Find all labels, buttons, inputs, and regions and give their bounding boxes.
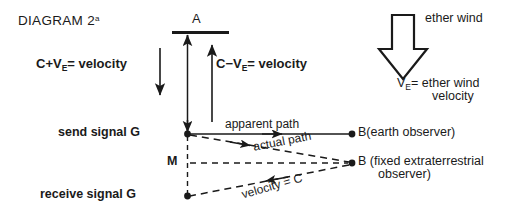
down-beam-prefix: C+V <box>36 56 62 71</box>
diagram-vector-layer <box>0 0 512 213</box>
send-signal-label: send signal G <box>58 126 140 139</box>
down-beam-suffix: = velocity <box>67 56 127 71</box>
up-beam-prefix: C−V <box>216 56 242 71</box>
ether-wind-block-arrow <box>379 15 427 79</box>
page-title: DIAGRAM 2a <box>18 14 100 28</box>
down-beam-velocity-label: C+VE= velocity <box>36 57 127 73</box>
mirror-a-label: A <box>192 12 201 26</box>
b-earth-observer-label: B(earth observer) <box>358 126 455 139</box>
ether-velocity-rest: = ether wind <box>411 76 479 90</box>
up-beam-velocity-label: C−VE= velocity <box>216 57 307 73</box>
b-fixed-observer-label-line2: observer) <box>378 168 431 181</box>
receive-signal-label: receive signal G <box>40 188 136 201</box>
point-receive-signal-g <box>184 193 191 200</box>
point-b-fixed-observer <box>349 160 356 167</box>
page-title-superscript: a <box>95 14 100 23</box>
apparent-path-label: apparent path <box>225 118 299 131</box>
point-b-earth-observer <box>349 131 356 138</box>
point-send-signal-g <box>184 131 191 138</box>
page-title-text: DIAGRAM 2 <box>18 13 95 28</box>
up-beam-suffix: = velocity <box>247 56 307 71</box>
ether-wind-label: ether wind <box>425 12 483 25</box>
midpoint-label: M <box>167 155 177 168</box>
actual-path-arrowhead <box>230 142 250 146</box>
ether-wind-velocity-label-line2: velocity <box>432 90 474 103</box>
diagram-canvas: DIAGRAM 2a A C+VE= velocity C−VE= veloci… <box>0 0 512 213</box>
